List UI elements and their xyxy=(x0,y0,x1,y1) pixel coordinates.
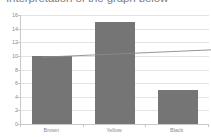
x-axis: BrownYellowBlack xyxy=(20,126,208,137)
y-tick-label: 0 xyxy=(2,121,18,127)
y-tick-label: 16 xyxy=(2,12,18,18)
x-tick-mark xyxy=(83,124,84,127)
y-tick-label: 8 xyxy=(2,67,18,73)
bar xyxy=(95,22,135,124)
x-tick-label: Yellow xyxy=(83,126,146,134)
y-tick-label: 6 xyxy=(2,80,18,86)
x-tick-mark xyxy=(208,124,209,127)
plot-area xyxy=(20,15,209,125)
gridline xyxy=(21,15,209,16)
y-tick-label: 2 xyxy=(2,107,18,113)
x-tick-label: Brown xyxy=(20,126,83,134)
y-tick-label: 10 xyxy=(2,53,18,59)
y-tick-label: 14 xyxy=(2,26,18,32)
bar xyxy=(158,90,198,124)
y-axis: 0246810121416 xyxy=(0,15,18,124)
x-tick-mark xyxy=(20,124,21,127)
y-tick-label: 12 xyxy=(2,39,18,45)
chart-title: Interpretation of the graph below xyxy=(6,0,206,5)
x-tick-mark xyxy=(145,124,146,127)
bar-chart-figure: Interpretation of the graph below 024681… xyxy=(0,0,211,137)
y-tick-label: 4 xyxy=(2,94,18,100)
bar xyxy=(32,56,72,124)
x-tick-label: Black xyxy=(145,126,208,134)
